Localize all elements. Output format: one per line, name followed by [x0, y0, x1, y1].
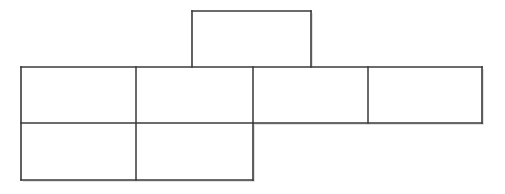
net-face-face-bottom-2 — [136, 123, 253, 180]
net-face-face-middle-2 — [136, 67, 253, 123]
diagram-canvas — [0, 0, 505, 194]
net-face-face-middle-3 — [253, 67, 368, 123]
cube-net-diagram — [0, 0, 505, 194]
net-face-face-middle-4 — [368, 67, 482, 123]
net-face-face-top-1 — [192, 11, 311, 67]
net-face-face-bottom-1 — [21, 123, 136, 180]
net-face-fills — [21, 11, 482, 180]
net-face-face-middle-1 — [21, 67, 136, 123]
